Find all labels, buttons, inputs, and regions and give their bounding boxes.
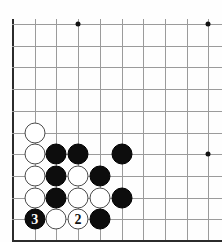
white-stone-c3 (24, 165, 45, 186)
grid-line-vertical-6 (143, 19, 144, 241)
go-board-diagram: 32 (0, 0, 222, 242)
grid-line-vertical-8 (187, 19, 188, 241)
grid-line-horizontal-3 (12, 89, 222, 90)
move-number-label: 2 (75, 212, 82, 226)
grid-line-horizontal-0 (12, 24, 222, 25)
black-stone-move-3: 3 (24, 209, 45, 230)
grid-line-vertical-9 (208, 19, 209, 241)
white-stone-e2 (68, 187, 89, 208)
star-point-top-right (206, 22, 211, 27)
white-stone-f2 (89, 187, 110, 208)
grid-line-horizontal-1 (12, 46, 222, 47)
board-left-edge (12, 19, 14, 241)
grid-line-horizontal-4 (12, 111, 222, 112)
black-stone-f1 (89, 209, 110, 230)
white-stone-c5 (24, 122, 45, 143)
grid-line-horizontal-2 (12, 67, 222, 68)
black-stone-g2 (111, 187, 132, 208)
star-point-right-middle (206, 152, 211, 157)
grid-line-vertical-7 (165, 19, 166, 241)
white-stone-e3 (68, 165, 89, 186)
black-stone-e4 (68, 144, 89, 165)
move-number-label: 3 (31, 212, 38, 226)
black-stone-d4 (46, 144, 67, 165)
white-stone-move-2: 2 (68, 209, 89, 230)
star-point-top-left (76, 22, 81, 27)
white-stone-d1 (46, 209, 67, 230)
white-stone-c4 (24, 144, 45, 165)
black-stone-d2 (46, 187, 67, 208)
black-stone-g4 (111, 144, 132, 165)
white-stone-c2 (24, 187, 45, 208)
black-stone-f3 (89, 165, 110, 186)
black-stone-d3 (46, 165, 67, 186)
